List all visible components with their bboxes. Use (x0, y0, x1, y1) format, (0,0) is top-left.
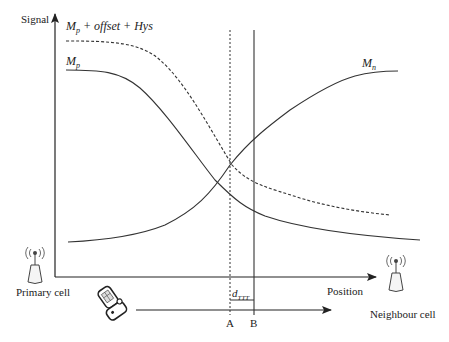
primary-cell-label: Primary cell (16, 287, 70, 298)
antenna-tower-icon (387, 255, 406, 292)
antenna-tower-icon (26, 247, 45, 284)
neighbour-curve-label: Mn (362, 57, 376, 72)
threshold-curve-label: Mp + offset + Hys (66, 20, 153, 35)
mobile-phone-icon (93, 284, 128, 322)
marker-a-label: A (226, 318, 234, 329)
marker-b-label: B (250, 318, 257, 329)
y-axis-label: Signal (21, 14, 49, 25)
neighbour-cell-label: Neighbour cell (370, 309, 436, 320)
neighbour-signal-curve (68, 71, 398, 242)
primary-signal-curve (66, 70, 420, 240)
x-axis-label: Position (327, 286, 363, 297)
threshold-curve (66, 41, 390, 215)
ttt-interval-label: dTTT (232, 288, 249, 302)
primary-curve-label: Mp (66, 55, 80, 70)
